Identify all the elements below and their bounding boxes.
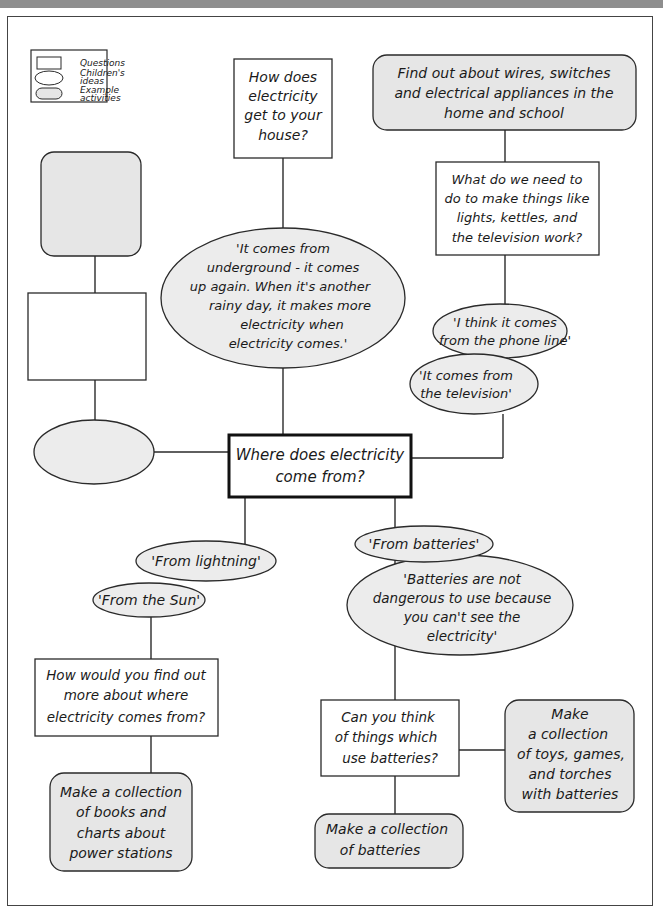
central-question-line: Where does electricity bbox=[236, 446, 406, 464]
question-find-out-line: more about where bbox=[64, 687, 189, 703]
question-house: How does electricity get to your house? bbox=[234, 59, 332, 158]
idea-television-text: the television' bbox=[420, 386, 512, 401]
idea-phone-line-text: from the phone line' bbox=[439, 333, 571, 348]
question-find-out-line: electricity comes from? bbox=[47, 709, 205, 725]
question-need: What do we need to do to make things lik… bbox=[436, 162, 599, 255]
question-house-line: How does bbox=[249, 69, 317, 85]
legend-activities-label-2: activities bbox=[80, 93, 121, 103]
idea-not-dangerous-line: electricity' bbox=[427, 628, 498, 644]
activity-books-line: of books and bbox=[76, 804, 166, 820]
idea-underground-line: up again. When it's another bbox=[190, 279, 372, 294]
question-think-line: use batteries? bbox=[342, 750, 438, 766]
activity-batteries: Make a collection of batteries bbox=[315, 814, 463, 868]
legend-activity-swatch bbox=[36, 88, 62, 99]
question-find-out-line: How would you find out bbox=[46, 667, 206, 683]
activity-toys-line: Make bbox=[551, 706, 588, 722]
activity-toys-line: a collection bbox=[528, 726, 608, 742]
activity-toys-line: of toys, games, bbox=[517, 746, 625, 762]
idea-from-batteries-text: 'From batteries' bbox=[369, 536, 480, 552]
idea-television-text: 'It comes from bbox=[419, 368, 513, 383]
legend-idea-swatch bbox=[35, 71, 63, 85]
activity-toys-line: and torches bbox=[528, 766, 611, 782]
idea-lightning: 'From lightning' bbox=[136, 541, 276, 581]
idea-not-dangerous-line: dangerous to use because bbox=[373, 590, 551, 606]
idea-sun-text: 'From the Sun' bbox=[98, 592, 200, 608]
idea-television: 'It comes from the television' bbox=[410, 354, 538, 414]
blank-question-box bbox=[28, 293, 146, 380]
question-house-line: house? bbox=[258, 127, 308, 143]
question-need-line: lights, kettles, and bbox=[457, 210, 578, 225]
question-think-line: of things which bbox=[335, 729, 438, 745]
idea-lightning-text: 'From lightning' bbox=[151, 553, 261, 569]
question-find-out: How would you find out more about where … bbox=[35, 659, 218, 736]
idea-phone-line-text: 'I think it comes bbox=[453, 315, 557, 330]
concept-map: Questions Children's ideas Example activ… bbox=[0, 0, 663, 913]
blank-idea-ellipse bbox=[34, 420, 154, 484]
central-question-line: come from? bbox=[275, 468, 364, 486]
activity-wires: Find out about wires, switches and elect… bbox=[373, 55, 636, 130]
idea-underground-line: electricity when bbox=[240, 317, 344, 332]
legend-question-swatch bbox=[37, 57, 61, 69]
idea-not-dangerous: 'Batteries are not dangerous to use beca… bbox=[347, 555, 573, 655]
central-question: Where does electricity come from? bbox=[229, 435, 411, 497]
activity-books-line: power stations bbox=[68, 845, 172, 861]
activity-books-line: charts about bbox=[77, 825, 166, 841]
question-think: Can you think of things which use batter… bbox=[321, 700, 459, 776]
question-need-line: the television work? bbox=[452, 230, 583, 245]
idea-underground-line: 'It comes from bbox=[236, 241, 330, 256]
question-think-line: Can you think bbox=[341, 709, 436, 725]
activity-toys: Make a collection of toys, games, and to… bbox=[505, 700, 634, 812]
idea-underground-line: underground - it comes bbox=[207, 260, 360, 275]
activity-books: Make a collection of books and charts ab… bbox=[50, 773, 192, 871]
activity-batteries-line: of batteries bbox=[340, 842, 421, 858]
idea-sun: 'From the Sun' bbox=[93, 583, 205, 617]
idea-phone-line: 'I think it comes from the phone line' bbox=[433, 304, 571, 358]
activity-toys-line: with batteries bbox=[522, 786, 619, 802]
activity-wires-line: and electrical appliances in the bbox=[394, 85, 613, 101]
question-house-line: get to your bbox=[244, 107, 323, 123]
blank-activity-box bbox=[41, 152, 141, 256]
idea-not-dangerous-line: you can't see the bbox=[403, 609, 521, 625]
activity-wires-line: Find out about wires, switches bbox=[398, 65, 611, 81]
question-need-line: What do we need to bbox=[451, 172, 582, 187]
question-house-line: electricity bbox=[248, 88, 318, 104]
question-need-line: do to make things like bbox=[445, 191, 590, 206]
activity-batteries-line: Make a collection bbox=[326, 821, 448, 837]
idea-underground: 'It comes from underground - it comes up… bbox=[161, 228, 405, 368]
idea-underground-line: rainy day, it makes more bbox=[209, 298, 371, 313]
idea-from-batteries: 'From batteries' bbox=[355, 526, 493, 562]
idea-underground-line: electricity comes.' bbox=[229, 336, 348, 351]
idea-not-dangerous-line: 'Batteries are not bbox=[403, 571, 521, 587]
activity-books-line: Make a collection bbox=[60, 784, 182, 800]
legend-questions-label: Questions bbox=[80, 58, 125, 68]
legend: Questions Children's ideas Example activ… bbox=[31, 50, 125, 103]
activity-wires-line: home and school bbox=[444, 105, 564, 121]
